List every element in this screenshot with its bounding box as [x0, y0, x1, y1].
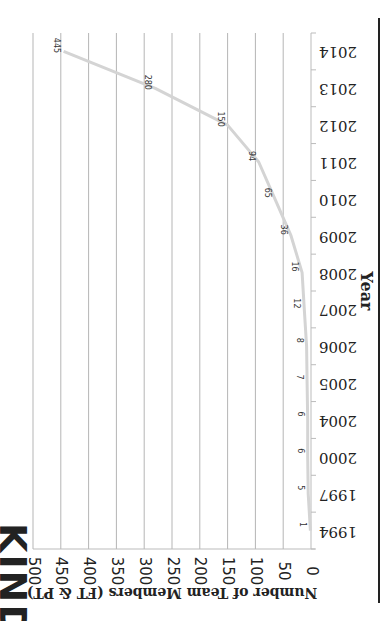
data-label: 8: [295, 338, 304, 343]
data-label: 1: [298, 522, 307, 527]
line-chart: 1566781216366594150280445 19941997200020…: [0, 0, 389, 621]
year-tick: 2008: [319, 265, 357, 283]
value-tick: 400: [80, 557, 98, 586]
data-label: 6: [296, 411, 305, 416]
value-tick-labels: 050100150200250300350400450500: [25, 557, 321, 586]
data-label: 36: [279, 225, 288, 235]
year-tick: 2013: [319, 80, 357, 98]
value-tick: 0: [303, 566, 321, 576]
data-label: 280: [143, 75, 152, 90]
year-tick: 2004: [319, 412, 357, 430]
axes: [33, 33, 316, 549]
value-tick: 50: [275, 561, 293, 580]
data-label: 12: [292, 298, 301, 308]
year-tick: 2011: [319, 154, 357, 172]
value-tick: 450: [52, 557, 70, 586]
data-labels: 1566781216366594150280445: [52, 38, 308, 527]
data-label: 94: [247, 151, 256, 161]
data-label: 150: [216, 112, 225, 127]
y-axis-title: Number of Team Members (FT & PT): [27, 585, 317, 601]
year-tick: 2014: [319, 43, 357, 61]
year-tick: 2000: [319, 449, 357, 467]
data-label: 16: [290, 261, 299, 271]
value-tick: 300: [136, 557, 154, 586]
year-tick: 2006: [319, 338, 357, 356]
year-tick: 1994: [319, 523, 357, 541]
year-tick: 2009: [319, 228, 357, 246]
value-tick: 150: [219, 557, 237, 586]
value-tick: 250: [164, 557, 182, 586]
year-tick: 2010: [319, 191, 357, 209]
data-label: 5: [296, 485, 305, 490]
value-tick: 200: [191, 557, 209, 586]
year-tick: 1997: [319, 486, 357, 504]
data-label: 65: [263, 188, 272, 198]
year-tick-labels: 1994199720002004200520062007200820092010…: [319, 43, 357, 540]
data-label: 445: [52, 38, 61, 53]
gridlines: [33, 33, 311, 549]
x-axis-title: Year: [357, 270, 376, 311]
value-tick: 100: [247, 557, 265, 586]
data-line: [64, 51, 311, 530]
value-tick: 350: [108, 557, 126, 586]
year-tick: 2012: [319, 117, 357, 135]
data-label: 6: [296, 448, 305, 453]
value-tick: 500: [25, 557, 43, 586]
year-tick: 2007: [319, 301, 357, 319]
data-label: 7: [295, 375, 304, 380]
year-tick: 2005: [319, 375, 357, 393]
